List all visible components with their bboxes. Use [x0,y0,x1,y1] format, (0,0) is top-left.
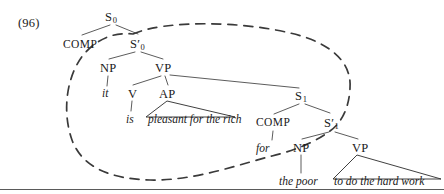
branch-V0-to-is [131,101,132,111]
node-AP0-text: AP [159,87,176,101]
node-for: for [256,143,269,155]
node-apText: pleasant for the rich [148,114,242,126]
node-V0: V [128,88,137,101]
enclosure-path [67,24,350,180]
node-S0-subscript: 0 [112,15,117,25]
node-it-text: it [102,87,108,99]
branch-Sbar0-to-VP0 [141,52,163,59]
node-vpText: to do the hard work [334,176,424,188]
node-apText-text: pleasant for the rich [148,113,242,125]
node-vpText-text: to do the hard work [334,175,424,187]
node-COMP0: COMP [63,39,97,51]
node-it: it [102,88,108,100]
branch-S1-to-Sbar1 [305,104,330,113]
node-NP0: NP [100,62,117,75]
branch-lines [82,25,358,173]
node-NP0-text: NP [100,61,117,75]
branch-VP0-to-S1 [170,75,299,88]
tree-canvas [0,0,444,194]
branch-NP0-to-it [107,76,108,86]
branch-Sbar1-to-VP1 [335,132,358,139]
node-is: is [126,114,134,126]
branch-VP0-to-AP0 [165,76,168,85]
node-S1-subscript: 1 [302,94,307,104]
node-COMP0-text: COMP [63,38,97,50]
node-for-text: for [256,142,269,154]
branch-S0-to-COMP0 [82,25,110,35]
node-NP1-text: NP [293,141,310,155]
node-VP0: VP [155,62,172,75]
syntax-tree-figure: (96) S0COMPS′0NPVPitVAPispleasant for th… [0,0,444,194]
node-VP0-text: VP [155,61,172,75]
node-VP1-text: VP [352,141,369,155]
node-thePoor: the poor [279,176,318,188]
node-AP0: AP [159,88,176,101]
node-NP1: NP [293,142,310,155]
node-V0-text: V [128,87,137,101]
node-COMP1-text: COMP [256,116,290,128]
branch-VP0-to-V0 [133,76,161,85]
branch-Sbar0-to-NP0 [109,52,135,59]
node-thePoor-text: the poor [279,175,318,187]
node-is-text: is [126,113,134,125]
node-Sbar0-subscript: 0 [140,42,145,52]
branch-S1-to-COMP1 [274,104,299,114]
node-COMP1: COMP [256,117,290,129]
page-rule-divider [0,189,444,190]
node-S1: S1 [295,90,307,104]
node-Sbar0: S′0 [130,38,145,52]
dashed-enclosure-ellipse [67,24,350,180]
branch-Sbar1-to-NP1 [302,132,329,139]
branch-COMP1-to-for [272,131,273,140]
node-S0: S0 [105,11,117,25]
node-Sbar1: S′1 [324,117,339,131]
node-VP1: VP [352,142,369,155]
node-Sbar1-subscript: 1 [334,121,339,131]
